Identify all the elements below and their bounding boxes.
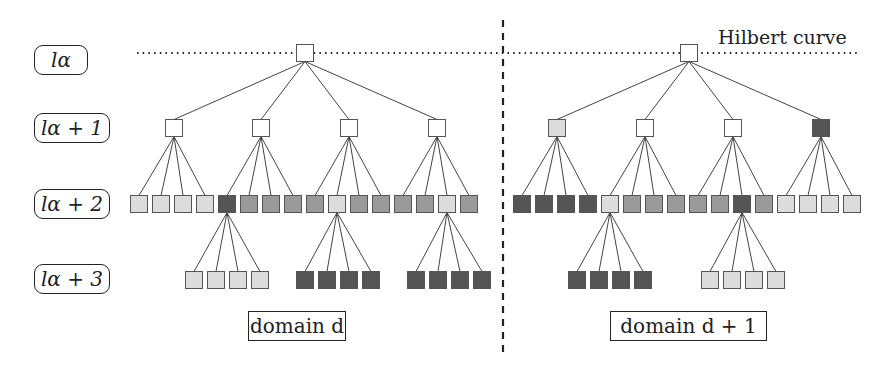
tree-edge: [305, 62, 437, 120]
tree-node-white: [166, 120, 183, 137]
tree-node-mid: [712, 196, 729, 213]
tree-node-light: [724, 272, 741, 289]
tree-edge: [447, 213, 482, 272]
tree-node-dark: [408, 272, 425, 289]
tree-node-dark: [558, 196, 575, 213]
tree-node-light: [329, 196, 346, 213]
tree-edge: [305, 62, 349, 120]
tree-node-mid: [417, 196, 434, 213]
tree-edge: [447, 213, 460, 272]
tree-node-dark: [219, 196, 236, 213]
tree-node-mid: [395, 196, 412, 213]
tree-node-mid: [646, 196, 663, 213]
tree-node-mid: [461, 196, 478, 213]
domain-d-plus-1-label: domain d + 1: [610, 311, 767, 341]
tree-node-dark: [474, 272, 491, 289]
tree-node-white: [341, 120, 358, 137]
tree-node-dark: [341, 272, 358, 289]
tree-edge: [139, 137, 174, 196]
tree-edge: [544, 137, 557, 196]
tree-node-dark: [514, 196, 531, 213]
tree-edge: [227, 213, 260, 272]
tree-edge: [161, 137, 174, 196]
level-label-0: lα: [34, 45, 88, 75]
tree-node-light: [768, 272, 785, 289]
tree-node-white: [681, 45, 698, 62]
tree-node-light: [208, 272, 225, 289]
tree-edge: [315, 137, 349, 196]
tree-edge: [786, 137, 821, 196]
tree-node-light: [702, 272, 719, 289]
tree-node-mid: [624, 196, 641, 213]
tree-edge: [522, 137, 557, 196]
tree-edge: [610, 137, 645, 196]
tree-node-mid: [241, 196, 258, 213]
tree-edge: [337, 137, 349, 196]
tree-node-light: [778, 196, 795, 213]
tree-node-mid: [756, 196, 773, 213]
tree-node-light: [131, 196, 148, 213]
tree-node-light: [186, 272, 203, 289]
tree-edge: [577, 213, 610, 272]
tree-node-dark: [363, 272, 380, 289]
tree-edge: [337, 213, 349, 272]
tree-edge: [174, 62, 305, 120]
tree-node-white: [637, 120, 654, 137]
tree-edge: [645, 62, 689, 120]
tree-edge: [698, 137, 733, 196]
tree-edge: [337, 213, 371, 272]
level-label-3: lα + 3: [34, 264, 110, 294]
tree-node-dark: [297, 272, 314, 289]
tree-edge: [632, 137, 645, 196]
tree-edge: [689, 62, 733, 120]
tree-node-dark: [430, 272, 447, 289]
tree-node-dark: [580, 196, 597, 213]
tree-node-dark: [613, 272, 630, 289]
tree-node-mid: [351, 196, 368, 213]
tree-node-light: [153, 196, 170, 213]
tree-node-mid: [690, 196, 707, 213]
tree-node-mid: [263, 196, 280, 213]
tree-edge: [808, 137, 821, 196]
tree-node-dark: [734, 196, 751, 213]
tree-edge: [425, 137, 437, 196]
tree-edge: [689, 62, 821, 120]
tree-node-light: [175, 196, 192, 213]
tree-node-mid: [285, 196, 302, 213]
tree-node-dark: [813, 120, 830, 137]
hilbert-curve-label: Hilbert curve: [718, 26, 847, 48]
tree-edge: [742, 213, 776, 272]
tree-node-light: [844, 196, 861, 213]
tree-node-white: [725, 120, 742, 137]
tree-edge: [557, 62, 689, 120]
tree-edge: [742, 213, 754, 272]
tree-node-white: [297, 45, 314, 62]
tree-node-dark: [569, 272, 586, 289]
tree-edge: [403, 137, 437, 196]
tree-node-light: [602, 196, 619, 213]
tree-node-light: [746, 272, 763, 289]
tree-node-light: [439, 196, 456, 213]
tree-edge: [249, 137, 261, 196]
tree-node-white: [429, 120, 446, 137]
tree-node-dark: [319, 272, 336, 289]
tree-node-white: [253, 120, 270, 137]
tree-node-light: [800, 196, 817, 213]
tree-edge: [194, 213, 227, 272]
tree-node-light: [549, 120, 566, 137]
tree-node-dark: [635, 272, 652, 289]
tree-node-mid: [668, 196, 685, 213]
tree-node-mid: [373, 196, 390, 213]
tree-edge: [720, 137, 733, 196]
tree-node-light: [822, 196, 839, 213]
tree-node-dark: [591, 272, 608, 289]
tree-node-dark: [452, 272, 469, 289]
domain-d-label: domain d: [248, 311, 346, 341]
tree-edge: [261, 62, 305, 120]
tree-node-light: [197, 196, 214, 213]
level-label-2: lα + 2: [34, 189, 110, 219]
tree-node-mid: [307, 196, 324, 213]
level-label-1: lα + 1: [34, 113, 110, 143]
tree-node-light: [230, 272, 247, 289]
tree-node-dark: [536, 196, 553, 213]
